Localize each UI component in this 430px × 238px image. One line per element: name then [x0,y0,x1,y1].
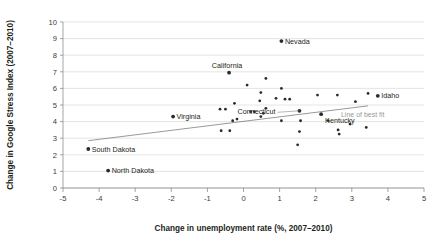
data-point-labeled [319,112,323,116]
data-point [336,94,339,97]
data-point [280,119,283,122]
scatter-chart-figure: 012345678910-5-4-3-2-1012345Change in un… [0,0,430,238]
x-axis-tick-label: -4 [96,194,103,203]
data-point [224,108,227,111]
data-point [327,119,330,122]
y-axis-tick-label: 3 [53,134,57,143]
y-axis-tick-label: 6 [53,84,57,93]
data-point [228,129,231,132]
x-axis-tick-label: -5 [60,194,67,203]
y-axis-title: Change in Google Stress Index (2007–2010… [6,20,15,190]
data-point [337,129,340,132]
data-point [236,118,239,121]
x-axis-tick-label: 1 [277,194,281,203]
x-axis-title: Change in unemployment rate (%, 2007–201… [155,224,333,233]
y-axis-tick-label: 2 [53,151,57,160]
data-point [354,100,357,103]
y-axis-tick-label: 5 [53,101,57,110]
chart-canvas: 012345678910-5-4-3-2-1012345Change in un… [0,0,430,238]
data-point [264,107,267,110]
x-axis-tick-label: 3 [350,194,354,203]
data-point-labeled [227,71,231,75]
x-axis-tick-label: 4 [386,194,390,203]
data-point [219,108,222,111]
data-point [298,130,301,133]
data-point-label: Idaho [381,91,399,100]
data-point [349,123,352,126]
data-point [259,115,262,118]
data-point [284,98,287,101]
data-point [262,112,265,115]
data-point [367,92,370,95]
data-point [338,133,341,136]
data-point [275,97,278,100]
x-axis-tick-label: -2 [168,194,175,203]
data-point [253,110,256,113]
data-point [231,119,234,122]
y-axis-tick-label: 9 [53,34,57,43]
data-point-label: Connecticut [237,107,275,116]
data-point [220,129,223,132]
data-point-label: South Dakota [92,145,136,154]
data-point [233,102,236,105]
y-axis-tick-label: 7 [53,68,57,77]
data-point-labeled [106,169,110,173]
x-axis-tick-label: -1 [204,194,211,203]
data-point [288,98,291,101]
data-point [258,99,261,102]
data-point-labeled [280,39,284,43]
data-point [259,91,262,94]
data-point [316,94,319,97]
x-axis-tick-label: 2 [314,194,318,203]
data-point-labeled [376,94,380,98]
data-point-label: California [212,61,242,70]
data-point [365,126,368,129]
data-point-labeled [171,115,175,119]
y-axis-tick-label: 10 [49,18,57,27]
data-point [296,143,299,146]
data-point-label: North Dakota [112,166,154,175]
x-axis-tick-label: 5 [422,194,426,203]
x-axis-tick-label: 0 [241,194,245,203]
data-point [249,110,252,113]
y-axis-tick-label: 1 [53,167,57,176]
data-point-label: Nevada [285,37,310,46]
data-point [264,77,267,80]
data-point [246,84,249,87]
data-point-labeled [86,147,90,151]
data-point-leader-line [277,111,299,113]
y-axis-tick-label: 0 [53,184,57,193]
data-point-label: Virginia [177,112,201,121]
data-point [280,87,283,90]
y-axis-tick-label: 4 [53,117,57,126]
y-axis-tick-label: 8 [53,51,57,60]
data-point [299,119,302,122]
x-axis-tick-label: -3 [132,194,139,203]
